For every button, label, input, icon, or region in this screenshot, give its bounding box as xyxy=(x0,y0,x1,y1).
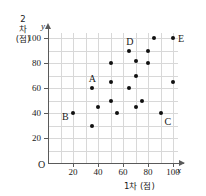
data-point xyxy=(134,59,138,63)
data-point xyxy=(71,111,75,115)
x-axis-arrow-icon xyxy=(179,160,185,166)
data-point xyxy=(115,111,119,115)
data-point xyxy=(109,61,113,65)
gridline-horizontal xyxy=(48,101,178,102)
data-point xyxy=(96,105,100,109)
x-axis-line xyxy=(48,163,184,164)
y-axis-tick-label: 60 xyxy=(15,84,41,93)
gridline-vertical xyxy=(173,33,174,163)
gridline-horizontal xyxy=(48,138,178,139)
y-axis-tick xyxy=(44,138,48,139)
gridline-horizontal xyxy=(48,38,178,39)
x-axis-title: 1차 (점) xyxy=(124,181,155,191)
x-axis-tick-label: 20 xyxy=(61,168,85,177)
gridline-vertical xyxy=(86,33,87,163)
y-axis-tick-label: 20 xyxy=(15,134,41,143)
y-axis-title-line-1: 2 xyxy=(8,14,38,24)
data-point xyxy=(127,86,131,90)
data-point xyxy=(134,105,138,109)
y-axis-tick-label: 100 xyxy=(15,34,41,43)
gridline-vertical xyxy=(73,33,74,163)
data-point xyxy=(146,49,150,53)
data-point xyxy=(171,36,175,40)
gridline-vertical xyxy=(148,33,149,163)
data-point xyxy=(109,99,113,103)
y-axis-tick xyxy=(44,113,48,114)
data-point xyxy=(90,124,94,128)
y-axis-tick xyxy=(44,38,48,39)
gridline-horizontal xyxy=(48,63,178,64)
x-axis-tick-label: 40 xyxy=(86,168,110,177)
data-point-label: A xyxy=(89,74,96,84)
gridline-horizontal xyxy=(48,76,178,77)
y-axis-arrow-icon xyxy=(45,23,51,29)
y-axis-tick-label: 40 xyxy=(15,109,41,118)
data-point-label: B xyxy=(62,112,69,122)
data-point xyxy=(127,49,131,53)
data-point xyxy=(109,80,113,84)
gridline-vertical xyxy=(123,33,124,163)
scatter-plot-figure: 2 차 (점) 1차 (점) y x O BADCE 2040608010020… xyxy=(0,0,206,196)
x-axis-tick-label: 80 xyxy=(136,168,160,177)
x-axis-tick-label: 60 xyxy=(111,168,135,177)
data-point xyxy=(140,99,144,103)
gridline-horizontal xyxy=(48,151,178,152)
origin-label: O xyxy=(38,160,45,170)
data-point-label: D xyxy=(126,37,133,47)
plot-area: BADCE xyxy=(48,33,178,163)
x-axis-tick-label: 100 xyxy=(161,168,185,177)
gridline-vertical xyxy=(98,33,99,163)
data-point-label: C xyxy=(165,117,172,127)
data-point xyxy=(171,80,175,84)
data-point xyxy=(146,61,150,65)
data-point xyxy=(152,36,156,40)
y-axis-tick xyxy=(44,88,48,89)
data-point-label: E xyxy=(178,34,184,44)
y-axis-line xyxy=(48,28,49,164)
gridline-vertical xyxy=(161,33,162,163)
gridline-horizontal xyxy=(48,88,178,89)
gridline-vertical xyxy=(136,33,137,163)
y-axis-tick-label: 80 xyxy=(15,59,41,68)
gridline-vertical xyxy=(61,33,62,163)
data-point xyxy=(159,111,163,115)
gridline-horizontal xyxy=(48,51,178,52)
gridline-horizontal xyxy=(48,126,178,127)
y-axis-tick xyxy=(44,63,48,64)
data-point xyxy=(90,86,94,90)
data-point xyxy=(134,74,138,78)
